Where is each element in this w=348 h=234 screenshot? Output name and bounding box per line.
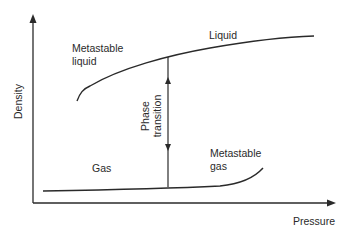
metastable-liquid-label: Metastable liquid <box>72 42 123 68</box>
phase-transition-label-line1: Phase <box>139 83 151 149</box>
phase-transition-label-line2: transition <box>151 83 163 149</box>
phase-transition-label: Phase transition <box>139 83 163 149</box>
metastable-liquid-label-line1: Metastable <box>72 42 123 55</box>
metastable-gas-label-line1: Metastable <box>210 147 261 160</box>
x-axis-arrowhead-icon <box>327 200 336 207</box>
phase-diagram <box>0 0 348 234</box>
metastable-gas-label-line2: gas <box>210 160 261 173</box>
metastable-liquid-label-line2: liquid <box>72 55 123 68</box>
phase-transition-down-arrowhead-icon <box>165 144 171 151</box>
y-axis-arrowhead-icon <box>30 14 37 23</box>
x-axis-label: Pressure <box>293 215 335 228</box>
y-axis-label: Density <box>12 80 25 124</box>
metastable-gas-label: Metastable gas <box>210 147 261 173</box>
liquid-label: Liquid <box>209 29 237 42</box>
phase-transition-up-arrowhead-icon <box>165 77 171 84</box>
gas-label: Gas <box>92 162 111 175</box>
